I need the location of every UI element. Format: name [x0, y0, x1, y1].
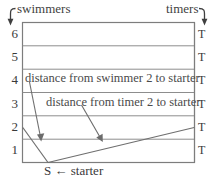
starter-label: S ← starter: [44, 164, 103, 177]
swimmers-label: swimmers: [17, 2, 70, 15]
annotation-swimmer-distance: distance from swimmer 2 to starter: [25, 72, 200, 85]
row-label-5: 5: [6, 50, 18, 63]
row-label-3: 3: [6, 97, 18, 110]
timer-label-5: T: [198, 51, 205, 63]
row-label-2: 2: [6, 120, 18, 133]
timer-label-1: T: [198, 144, 205, 156]
diagram-canvas: swimmers timers 6 5 4 3 2 1 T T T T T T …: [0, 0, 221, 185]
timers-label: timers: [166, 2, 199, 15]
row-label-1: 1: [6, 143, 18, 156]
swimmers-hook-arrow: [11, 9, 16, 21]
timers-hook-arrow: [199, 9, 205, 21]
row-label-4: 4: [6, 73, 18, 86]
timers-arrow-head: [202, 19, 208, 26]
timer-label-6: T: [198, 28, 205, 40]
diagram-graphics: [0, 0, 221, 185]
swimmers-arrow-head: [8, 19, 14, 26]
annotation-timer-distance: distance from timer 2 to starter: [46, 96, 200, 109]
row-label-6: 6: [6, 27, 18, 40]
timer-label-2: T: [198, 121, 205, 133]
